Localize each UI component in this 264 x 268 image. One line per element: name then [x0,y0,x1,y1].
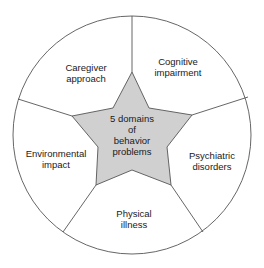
center-line-4: problems [110,146,154,157]
center-label: 5 domains of behavior problems [110,113,154,157]
segment-cognitive-impairment: Cognitive impairment [155,56,202,78]
segment-label-line: impact [26,159,87,170]
segment-label-line: illness [116,219,151,230]
segment-label-line: Environmental [26,148,87,159]
segment-label-line: disorders [189,161,235,172]
segment-label-line: Psychiatric [189,150,235,161]
segment-label-line: impairment [155,67,202,78]
center-line-3: behavior [110,135,154,146]
segment-environmental-impact: Environmental impact [26,148,87,170]
segment-label-line: Cognitive [155,56,202,67]
center-line-1: 5 domains [110,113,154,124]
segment-label-line: Physical [116,208,151,219]
segment-caregiver-approach: Caregiver approach [65,62,106,84]
segment-physical-illness: Physical illness [116,208,151,230]
center-line-2: of [110,124,154,135]
segment-label-line: Caregiver [65,62,106,73]
segment-psychiatric-disorders: Psychiatric disorders [189,150,235,172]
segment-label-line: approach [65,73,106,84]
